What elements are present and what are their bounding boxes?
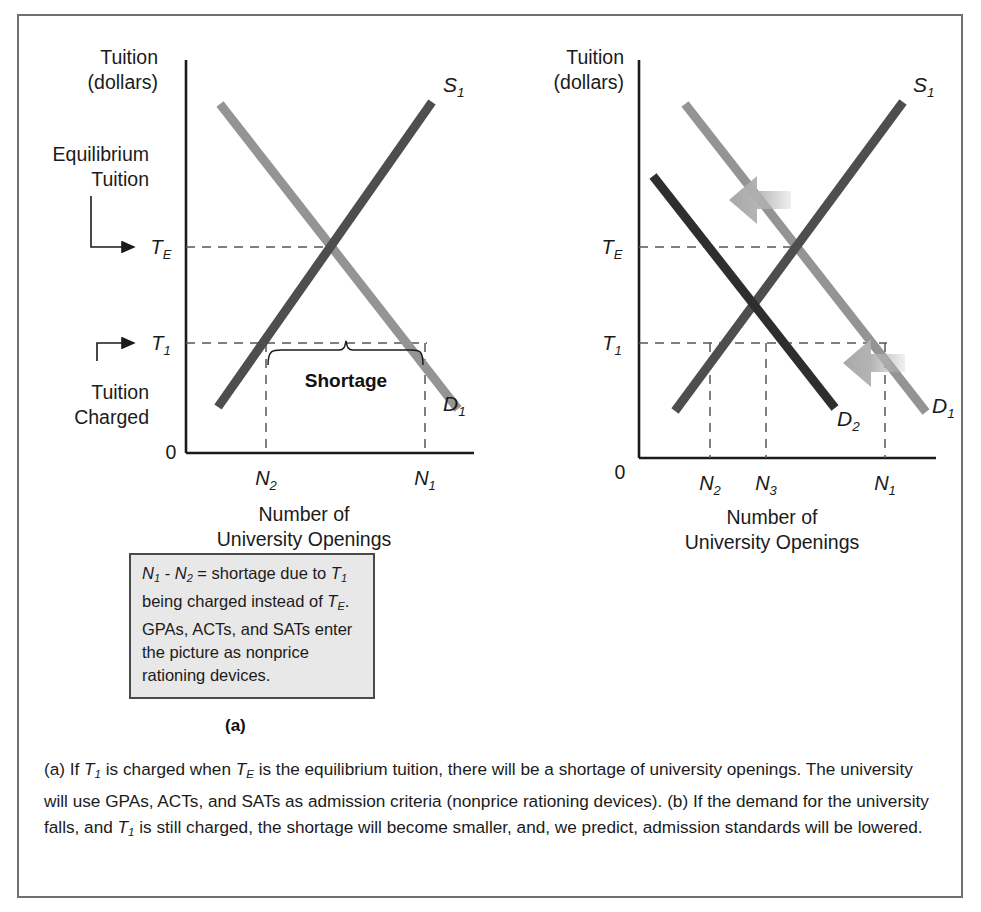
panel-a-x-axis-title-line2: University Openings: [217, 528, 392, 550]
panel-a-origin-label: 0: [166, 441, 177, 463]
panel-b-x-axis-title-line2: University Openings: [685, 531, 860, 553]
note-a-text: N1 - N2 = shortage due to T1 being charg…: [142, 562, 363, 687]
panel-b-y-tick-TE: TE: [602, 236, 623, 262]
panel-b-y-axis-title-line2: (dollars): [554, 71, 624, 93]
panel-b-x-axis-title-line1: Number of: [726, 506, 818, 528]
panel-b-plot: Tuition (dollars) TE T1 0: [489, 16, 963, 716]
panel-a-y-axis-title-line2: (dollars): [88, 71, 158, 93]
panel-b-y-axis-title-line1: Tuition: [566, 46, 624, 68]
panel-a-callout-charged-arrow: [97, 343, 134, 361]
panel-b-y-tick-T1: T1: [602, 332, 621, 358]
panel-a-curve-label-D1: D1: [443, 392, 466, 419]
panel-b-curve-label-S1: S1: [913, 73, 935, 100]
panel-b-x-tick-N2: N2: [699, 472, 721, 498]
panel-a-x-axis-title-line1: Number of: [258, 503, 350, 525]
panel-a-curve-label-S1: S1: [443, 73, 465, 100]
panel-a-y-tick-T1: T1: [151, 332, 170, 358]
panel-b-x-tick-N3: N3: [755, 472, 777, 498]
panel-a-y-axis-title-line1: Tuition: [100, 46, 158, 68]
panel-b-x-tick-N1: N1: [874, 472, 896, 498]
panel-b-curve-label-D1: D1: [932, 394, 955, 421]
panel-b-origin-label: 0: [615, 461, 626, 483]
panel-a-letter: (a): [225, 716, 246, 736]
panel-b-shift-arrow-upper: [729, 176, 791, 224]
panel-a-shortage-label: Shortage: [305, 370, 387, 391]
panel-a-shortage-brace: [268, 341, 423, 365]
panel-a-x-tick-N2: N2: [255, 467, 277, 493]
panel-a-callout-charged-line2: Charged: [74, 406, 149, 428]
panel-a-x-tick-N1: N1: [414, 467, 436, 493]
panel-a: Tuition (dollars) Equilibrium Tuition Tu…: [19, 16, 489, 716]
figure-caption: (a) If T1 is charged when TE is the equi…: [44, 756, 934, 846]
panel-a-callout-equilibrium-arrow: [91, 196, 134, 247]
panel-b-curve-label-D2: D2: [837, 407, 860, 434]
panel-a-callout-equilibrium-line1: Equilibrium: [53, 143, 149, 165]
panel-a-callout-charged-line1: Tuition: [91, 381, 149, 403]
panel-b: Tuition (dollars) TE T1 0: [489, 16, 963, 716]
panel-a-y-tick-TE: TE: [151, 236, 172, 262]
caption-text: (a) If T1 is charged when TE is the equi…: [44, 756, 934, 846]
note-box-a: N1 - N2 = shortage due to T1 being charg…: [129, 553, 375, 699]
figure-frame: Tuition (dollars) Equilibrium Tuition Tu…: [17, 14, 963, 898]
panel-a-callout-equilibrium-line2: Tuition: [91, 168, 149, 190]
